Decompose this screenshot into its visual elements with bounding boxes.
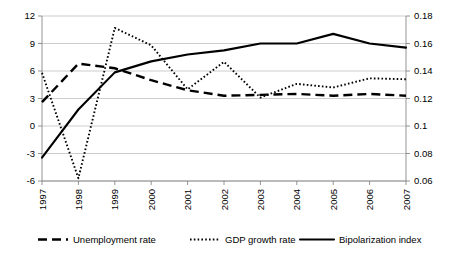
- right-axis-tick-label: 0.1: [414, 120, 427, 131]
- x-axis-tickmarks: [42, 181, 406, 185]
- x-axis-tick-labels: 1997199819992000200120022003200420052006…: [37, 189, 412, 210]
- right-axis-tick-label: 0.08: [414, 148, 433, 159]
- left-axis-tick-label: 3: [30, 93, 35, 104]
- right-axis-tick-label: 0.12: [414, 93, 433, 104]
- x-axis-tick-label: 2004: [291, 189, 302, 210]
- x-axis-tick-label: 1998: [73, 189, 84, 210]
- left-axis-tickmarks: [38, 16, 42, 181]
- left-axis-tick-label: -3: [27, 148, 35, 159]
- x-axis-tick-label: 2001: [182, 189, 193, 210]
- right-axis-tick-label: 0.06: [414, 175, 433, 186]
- x-axis-tick-label: 1999: [109, 189, 120, 210]
- x-axis-tick-label: 1997: [37, 189, 48, 210]
- left-axis-tick-labels: -6-3036912: [24, 10, 35, 186]
- chart-figure: -6-3036912 0.060.080.10.120.140.160.18 1…: [0, 0, 454, 256]
- left-axis-tick-label: 9: [30, 38, 35, 49]
- left-axis-tick-label: -6: [27, 175, 35, 186]
- x-axis-tick-label: 2005: [328, 189, 339, 210]
- line-chart: -6-3036912 0.060.080.10.120.140.160.18 1…: [0, 0, 454, 256]
- series-line-unemployment-rate: [42, 64, 406, 103]
- x-axis-tick-label: 2003: [255, 189, 266, 210]
- x-axis-tick-label: 2000: [146, 189, 157, 210]
- right-axis-tick-labels: 0.060.080.10.120.140.160.18: [414, 10, 433, 186]
- legend-label: GDP growth rate: [225, 234, 296, 245]
- grid-lines: [42, 16, 406, 181]
- right-axis-tick-label: 0.18: [414, 10, 433, 21]
- legend-label: Unemployment rate: [73, 234, 156, 245]
- right-axis-tickmarks: [406, 16, 410, 181]
- chart-legend: Unemployment rateGDP growth rateBipolari…: [38, 234, 422, 245]
- left-axis-tick-label: 6: [30, 65, 35, 76]
- left-axis-tick-label: 12: [24, 10, 35, 21]
- x-axis-tick-label: 2006: [364, 189, 375, 210]
- x-axis-tick-label: 2002: [219, 189, 230, 210]
- legend-label: Bipolarization index: [339, 234, 422, 245]
- x-axis-tick-label: 2007: [401, 189, 412, 210]
- right-axis-tick-label: 0.16: [414, 38, 433, 49]
- right-axis-tick-label: 0.14: [414, 65, 433, 76]
- left-axis-tick-label: 0: [30, 120, 35, 131]
- data-series-group: [42, 28, 406, 178]
